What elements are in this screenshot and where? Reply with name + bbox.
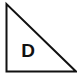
triangle-label: D [20, 41, 36, 61]
diagram-canvas: D [0, 0, 77, 77]
right-triangle-shape [0, 0, 77, 77]
